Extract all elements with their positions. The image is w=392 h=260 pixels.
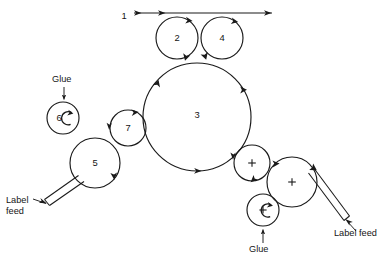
- glue-right-label: Glue: [249, 244, 268, 254]
- roller-path-diagram: 1 2 4 3 7 5 6 Glue Glue Label feed Label…: [0, 0, 392, 260]
- roller-6-label: 6: [56, 112, 61, 123]
- label-feed-strip-left: [45, 176, 85, 206]
- label-feed-strip-right: [309, 169, 350, 221]
- label-feed-strip-right-edge-a: [309, 173, 345, 221]
- roller-6-rotation-arrow: [67, 110, 73, 116]
- roller-3-label: 3: [194, 109, 199, 120]
- label-feed-strip-right-edge-b: [315, 169, 350, 216]
- roller-7-direction-arrow-left: [107, 123, 112, 130]
- roller-glue-right: [247, 194, 279, 226]
- label-feed-right-label: Label feed: [334, 228, 377, 238]
- roller-4-label: 4: [219, 32, 224, 43]
- roller-right-upper: [230, 145, 270, 182]
- roller-6-outline: [47, 102, 79, 134]
- label-feed-right-leader-arrow: [346, 219, 353, 225]
- glue-left-label: Glue: [52, 74, 71, 84]
- label-feed-left-label-line2: feed: [6, 206, 24, 216]
- diagram-canvas: 1 2 4 3 7 5 6 Glue Glue Label feed Label…: [0, 0, 392, 260]
- label-feed-strip-left-edge-a: [45, 176, 79, 200]
- roller-3-direction-arrow-upper-right: [240, 86, 247, 93]
- roller-2-label: 2: [174, 32, 179, 43]
- web-line-1: [134, 10, 272, 16]
- roller-1-label: 1: [121, 10, 126, 21]
- roller-right-lower-direction-arrow-top: [272, 161, 279, 168]
- roller-4-direction-arrow-lower: [201, 52, 208, 60]
- label-feed-strip-left-edge-b: [50, 182, 85, 206]
- roller-glue-right-rotation-arrow: [267, 202, 273, 208]
- roller-5-label: 5: [92, 157, 97, 168]
- roller-6: [47, 102, 79, 134]
- roller-7-label: 7: [125, 122, 130, 133]
- label-feed-left-label-line1: Label: [6, 195, 28, 205]
